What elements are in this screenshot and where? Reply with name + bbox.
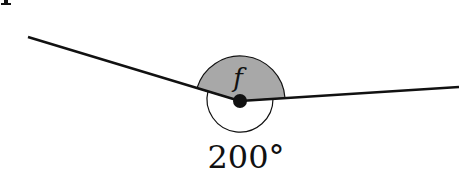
angle-200-label: 200°: [207, 138, 284, 176]
angle-diagram: f 200°: [0, 0, 459, 184]
vertex-point: [233, 94, 247, 108]
diagram-canvas: f 200°: [0, 0, 459, 184]
cropped-glyph-base: [1, 3, 11, 5]
